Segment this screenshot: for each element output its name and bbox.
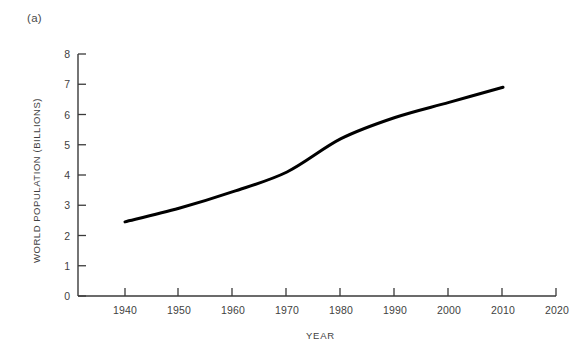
figure-panel-a: (a) WORLD POPULATION (BILLIONS) YEAR bbox=[0, 0, 580, 364]
x-tick-label: 1940 bbox=[98, 304, 152, 316]
y-axis-ticks bbox=[78, 54, 86, 296]
x-tick-label: 1990 bbox=[368, 304, 422, 316]
population-line-series bbox=[125, 87, 503, 222]
x-axis-ticks bbox=[125, 288, 556, 296]
y-tick-label: 5 bbox=[48, 139, 70, 151]
y-tick-label: 1 bbox=[48, 260, 70, 272]
x-tick-label: 2000 bbox=[422, 304, 476, 316]
x-tick-label: 1950 bbox=[152, 304, 206, 316]
y-tick-label: 8 bbox=[48, 48, 70, 60]
x-tick-label: 1980 bbox=[314, 304, 368, 316]
x-tick-label: 1960 bbox=[206, 304, 260, 316]
x-tick-label: 2020 bbox=[530, 304, 580, 316]
y-tick-label: 0 bbox=[48, 290, 70, 302]
y-tick-label: 7 bbox=[48, 78, 70, 90]
x-tick-label: 1970 bbox=[260, 304, 314, 316]
axes bbox=[78, 54, 556, 296]
y-tick-label: 2 bbox=[48, 230, 70, 242]
y-tick-label: 3 bbox=[48, 199, 70, 211]
y-tick-label: 4 bbox=[48, 169, 70, 181]
x-tick-label: 2010 bbox=[476, 304, 530, 316]
y-tick-label: 6 bbox=[48, 109, 70, 121]
